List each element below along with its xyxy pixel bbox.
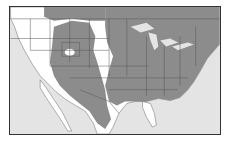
range-map xyxy=(9,6,221,135)
map-canvas xyxy=(10,7,220,134)
range-shading-east xyxy=(105,7,219,105)
non-range-florida xyxy=(143,102,157,128)
